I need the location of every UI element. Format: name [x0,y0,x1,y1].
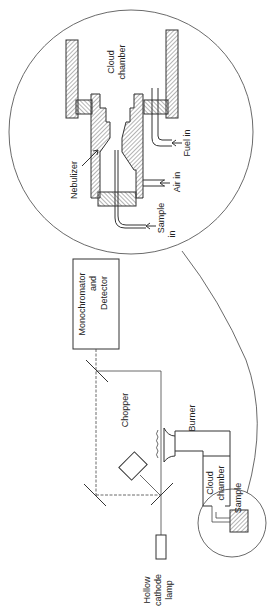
magnify-connector [182,251,257,493]
inset-cloud-label-1: Cloud [106,50,116,74]
small-sample-label: Sample [233,483,243,514]
beam-splitter [151,483,173,505]
air-in-label: Air in [172,172,182,193]
burner-label: Burner [187,404,197,431]
lamp-label-3: lamp [164,580,174,600]
burner-head [164,428,175,462]
monochromator-label-3: Detector [99,276,109,310]
hollow-cathode-lamp [156,535,166,559]
inset-cloud-label-2: chamber [117,44,127,79]
air-in-arrow [160,180,170,186]
sample-in-arrow [146,223,156,229]
coupling-ring-right [144,100,168,114]
chopper-label: Chopper [120,393,130,428]
main-schematic: Monochromator and Detector Chopper Hollo… [73,251,266,606]
monochromator-label-1: Monochromator [77,272,87,335]
small-cloud-label-2: chamber [216,465,226,500]
diagram-canvas: Cloud chamber Nebulizer Fuel in Air in S… [0,0,270,613]
burner-neck [175,431,230,456]
coupling-ring-left [76,100,92,114]
sample-in-label-2: in [167,230,177,237]
nebulizer-label: Nebulizer [69,161,79,199]
small-cloud-label-1: Cloud [205,471,215,495]
fuel-in-arrow [172,140,182,146]
inset-magnified-view: Cloud chamber Nebulizer Fuel in Air in S… [9,10,253,254]
chopper-shaft [140,475,160,495]
sample-tube [212,506,230,522]
sample-in-label-1: Sample [156,203,166,234]
aas-schematic: Cloud chamber Nebulizer Fuel in Air in S… [0,0,270,613]
fuel-in-label: Fuel in [182,129,192,156]
lamp-label-2: cathode [153,574,163,606]
nebulizer-body-left [91,94,110,198]
chopper-body [119,452,147,480]
nebulizer-end-cap [98,192,136,206]
flame-icon [157,430,159,458]
nebulizer-body-right [122,94,143,198]
lamp-label-1: Hollow [142,576,152,604]
monochromator-label-2: and [88,276,98,291]
